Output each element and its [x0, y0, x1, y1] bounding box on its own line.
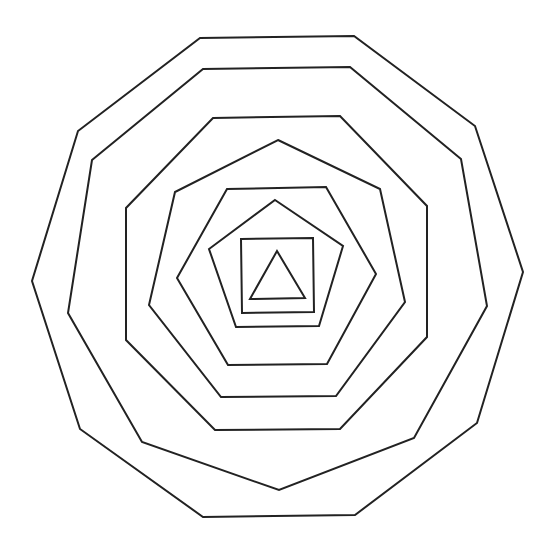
heptagon-shape — [149, 140, 405, 397]
nested-polygons-diagram — [0, 0, 551, 548]
pentagon-shape — [209, 200, 343, 327]
square-shape — [241, 238, 314, 313]
diagram-svg — [0, 0, 551, 548]
nonagon-shape — [68, 67, 487, 490]
triangle-shape — [250, 251, 305, 299]
octagon-shape — [126, 116, 427, 430]
hexagon-shape — [177, 187, 376, 365]
decagon-shape — [32, 36, 523, 517]
